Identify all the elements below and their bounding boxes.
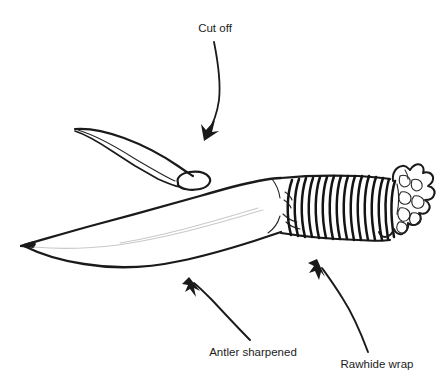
label-antler-sharpened: Antler sharpened [209, 346, 297, 358]
label-cut-off: Cut off [198, 22, 232, 34]
label-rawhide-wrap: Rawhide wrap [341, 358, 414, 370]
illustration-figure: Cut off Antler sharpened Rawhide wrap [0, 0, 442, 381]
diagram-canvas: Cut off Antler sharpened Rawhide wrap [0, 0, 442, 381]
